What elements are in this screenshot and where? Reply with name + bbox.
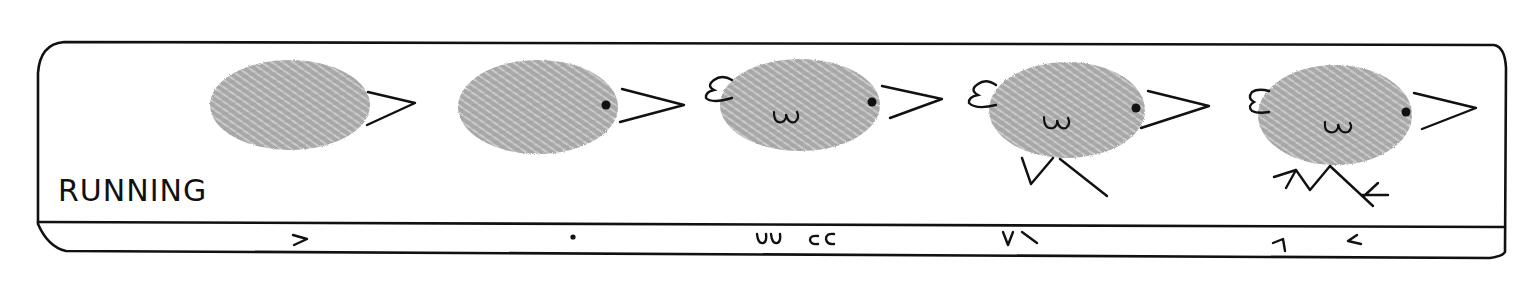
diagram-title: RUNNING (58, 176, 207, 206)
legend-strokes (293, 232, 1361, 251)
bird-step-3 (706, 59, 942, 151)
bird-step-4 (969, 62, 1209, 196)
leg-right-icon (1330, 166, 1373, 206)
legend-leg-right-icon (1022, 232, 1037, 243)
eye-icon (868, 98, 877, 107)
bird-step-2 (458, 60, 684, 154)
frame-divider (38, 222, 1505, 227)
running-bird-diagram: RUNNING (0, 0, 1524, 285)
legend-wing-icon (757, 234, 780, 243)
eye-icon (1402, 108, 1411, 117)
beak-icon (882, 86, 942, 118)
legend-beak-icon (293, 235, 307, 245)
foot-right-icon (1362, 183, 1388, 196)
beak-icon (620, 89, 684, 122)
legend-foot-right-icon (1348, 235, 1361, 244)
beak-icon (1414, 93, 1476, 129)
beak-icon (367, 92, 415, 125)
legend-foot-left-icon (1273, 239, 1285, 251)
bird-step-1 (210, 60, 415, 150)
eye-icon (1132, 104, 1141, 113)
leg-right-icon (1060, 159, 1107, 196)
legend-eye-icon (570, 234, 575, 239)
legend-tail-icon (810, 234, 834, 244)
legend-leg-left-icon (1003, 232, 1013, 245)
eye-icon (602, 101, 611, 110)
leg-left-icon (1022, 158, 1053, 184)
bird-step-5 (1250, 65, 1476, 206)
leg-left-icon (1274, 166, 1330, 190)
diagram-canvas (0, 0, 1524, 285)
beak-icon (1141, 91, 1209, 128)
